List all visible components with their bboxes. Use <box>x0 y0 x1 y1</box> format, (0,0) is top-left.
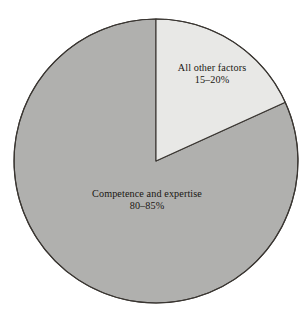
pie-label-competence-and-expertise-value: 80–85% <box>22 200 272 212</box>
pie-label-all-other-factors-value: 15–20% <box>150 74 274 86</box>
pie-chart-svg <box>0 0 308 321</box>
pie-label-competence-and-expertise-title: Competence and expertise <box>22 188 272 200</box>
pie-label-competence-and-expertise: Competence and expertise 80–85% <box>22 188 272 212</box>
pie-label-all-other-factors: All other factors 15–20% <box>150 62 274 86</box>
pie-chart-figure: All other factors 15–20% Competence and … <box>0 0 308 321</box>
pie-label-all-other-factors-title: All other factors <box>150 62 274 74</box>
